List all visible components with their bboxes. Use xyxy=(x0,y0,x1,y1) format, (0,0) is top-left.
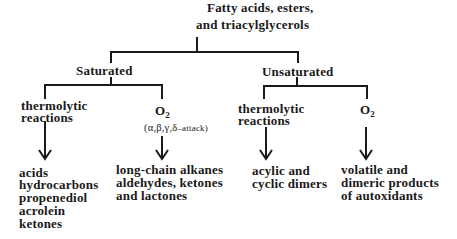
unsat-oxygen-product: of autoxidants xyxy=(341,189,423,203)
root-node-line2: and triacylglycerols xyxy=(196,18,309,32)
unsat-thermolytic-label-2: reactions xyxy=(238,114,290,128)
unsat-oxygen-label: O2 xyxy=(360,103,375,117)
unsat-thermo-product: cyclic dimers xyxy=(252,177,327,191)
sat-oxygen-product: and lactones xyxy=(116,189,187,203)
sat-thermolytic-label-2: reactions xyxy=(21,111,73,125)
sat-thermo-product: ketones xyxy=(19,217,62,231)
sat-oxygen-attack-note: (α,β,γ,δ–attack) xyxy=(144,121,208,135)
root-node-line1: Fatty acids, esters, xyxy=(207,1,314,15)
sat-oxygen-label: O2 xyxy=(155,104,170,118)
saturated-node: Saturated xyxy=(76,64,133,78)
unsaturated-node: Unsaturated xyxy=(262,65,334,79)
